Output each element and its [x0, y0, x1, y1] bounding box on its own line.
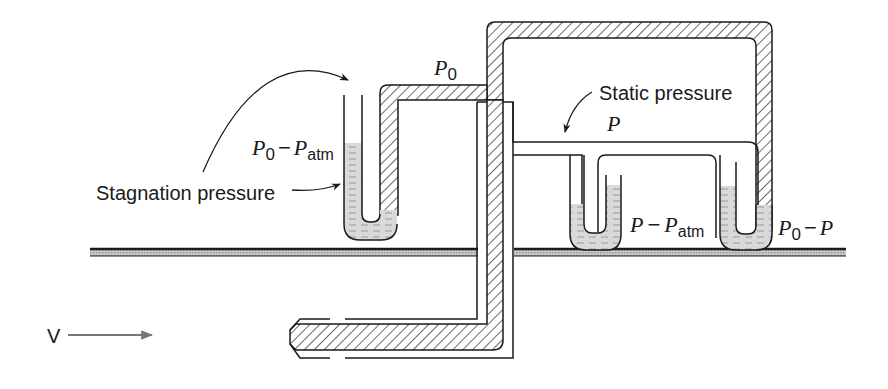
stagnation-pressure-label: Stagnation pressure — [96, 182, 275, 204]
right-manometer-label: P0−P — [777, 215, 833, 244]
p-static-symbol: P — [606, 111, 620, 136]
velocity-indicator: V — [47, 325, 152, 347]
middle-manometer — [570, 155, 621, 250]
static-pressure-label: Static pressure — [599, 82, 732, 104]
stagnation-short-arrow — [292, 184, 340, 190]
left-manometer-label: P0−Patm — [251, 135, 334, 164]
p0-symbol: P0 — [433, 55, 457, 84]
middle-manometer-label: P−Patm — [629, 212, 704, 240]
pitot-static-diagram: V Stagnation pressure Static pressure P0… — [0, 0, 888, 389]
velocity-label: V — [47, 325, 61, 347]
static-pressure-arrow — [565, 92, 592, 132]
